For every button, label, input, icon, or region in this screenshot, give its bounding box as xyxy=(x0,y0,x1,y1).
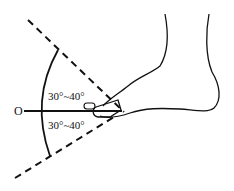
upper-angle-label: 30°~40° xyxy=(48,90,85,102)
foot-outline xyxy=(100,14,219,117)
lower-angle-label: 30°~40° xyxy=(48,119,85,131)
foot-angle-diagram: O 30°~40° 30°~40° xyxy=(0,0,234,191)
toenail-icon xyxy=(84,103,95,109)
angle-arc xyxy=(42,50,58,156)
reference-label: O xyxy=(14,104,23,118)
